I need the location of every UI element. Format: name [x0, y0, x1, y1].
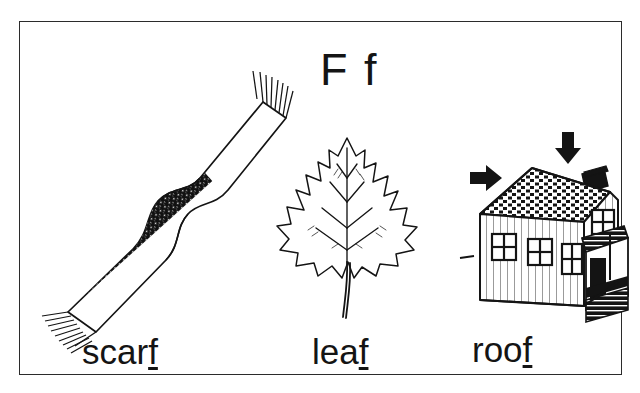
- letter-heading: F f: [320, 44, 410, 96]
- roof-illustration: [458, 130, 628, 330]
- word-label-roof: roof: [472, 330, 532, 370]
- word-label-leaf: leaf: [312, 332, 368, 372]
- word-leaf-prefix: lea: [312, 332, 359, 371]
- window-front-middle: [528, 239, 552, 265]
- flashcard-page: F f: [0, 0, 640, 393]
- window-front-left: [492, 234, 516, 260]
- card-border-frame: F f: [19, 21, 622, 375]
- word-label-scarf: scarf: [82, 332, 158, 372]
- leaf-illustration: [272, 130, 422, 325]
- word-roof-final-f: f: [523, 330, 533, 369]
- window-front-right: [562, 244, 582, 274]
- arrow-right-icon: [470, 165, 502, 191]
- scarf-body: [0, 0, 286, 368]
- word-leaf-final-f: f: [359, 332, 369, 371]
- word-roof-prefix: roo: [472, 330, 523, 369]
- house-porch: [582, 226, 628, 322]
- arrow-down-icon: [555, 132, 581, 164]
- scarf-illustration: [38, 44, 288, 334]
- word-scarf-prefix: scar: [82, 332, 148, 371]
- ground-line: [460, 256, 474, 258]
- word-scarf-final-f: f: [148, 332, 158, 371]
